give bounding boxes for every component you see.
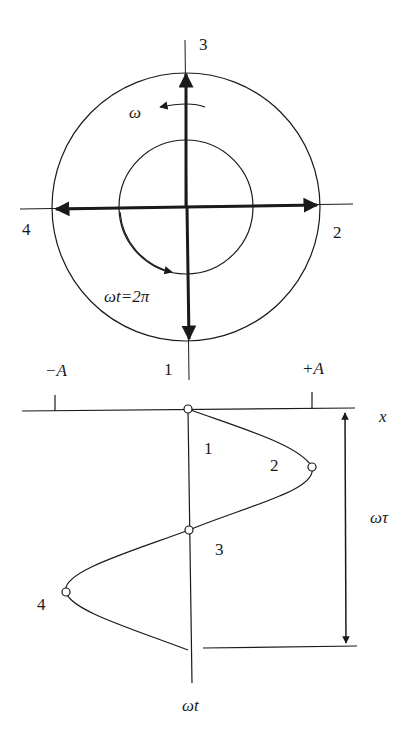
phasor-diagram: 3 2 4 ω ωt=2π −A +A 1 x ωτ ωt 1 2 3 4 (0, 0, 417, 742)
full-rotation-arrow (120, 212, 172, 272)
point-4-marker (62, 588, 70, 596)
period-arrow (345, 413, 346, 643)
label-point-1: 1 (204, 439, 213, 458)
point-1-marker (184, 405, 192, 413)
phasor-circle-group (20, 40, 353, 380)
projection-group (22, 392, 357, 683)
label-axis-top-1: 1 (164, 360, 173, 379)
phasor-arrow-left (56, 207, 186, 209)
label-time-axis: ωt (182, 696, 200, 715)
label-minus-a: −A (45, 361, 67, 380)
label-position-3: 3 (199, 35, 208, 54)
point-2-marker (308, 463, 316, 471)
period-bottom-line (203, 646, 357, 648)
label-point-2: 2 (270, 456, 279, 475)
label-full-rotation: ωt=2π (104, 287, 150, 306)
time-axis (188, 409, 192, 683)
label-point-4: 4 (37, 595, 46, 614)
omega-rotation-arrow (160, 104, 205, 107)
phasor-arrow-down (187, 207, 189, 339)
label-omega: ω (129, 103, 141, 122)
phasor-arrow-right (186, 205, 317, 207)
point-3-marker (185, 526, 193, 534)
label-x-axis: x (378, 407, 387, 426)
label-point-3: 3 (215, 540, 224, 559)
label-period: ωτ (370, 508, 389, 527)
label-position-2: 2 (333, 223, 342, 242)
label-plus-a: +A (302, 359, 324, 378)
label-position-4: 4 (22, 220, 31, 239)
